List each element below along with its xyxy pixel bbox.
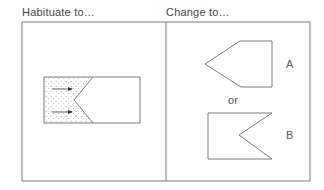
- option-a: A: [205, 41, 294, 87]
- label-a: A: [286, 58, 294, 70]
- shape-a-pentagon: [205, 41, 272, 87]
- shape-b-notched: [208, 113, 272, 159]
- option-b: B: [208, 113, 293, 159]
- habituation-diagram: A or B: [0, 0, 324, 190]
- habituation-stimulus: [44, 77, 140, 123]
- or-label: or: [228, 94, 238, 106]
- occluder-dotted-region: [44, 77, 93, 123]
- label-b: B: [286, 129, 293, 141]
